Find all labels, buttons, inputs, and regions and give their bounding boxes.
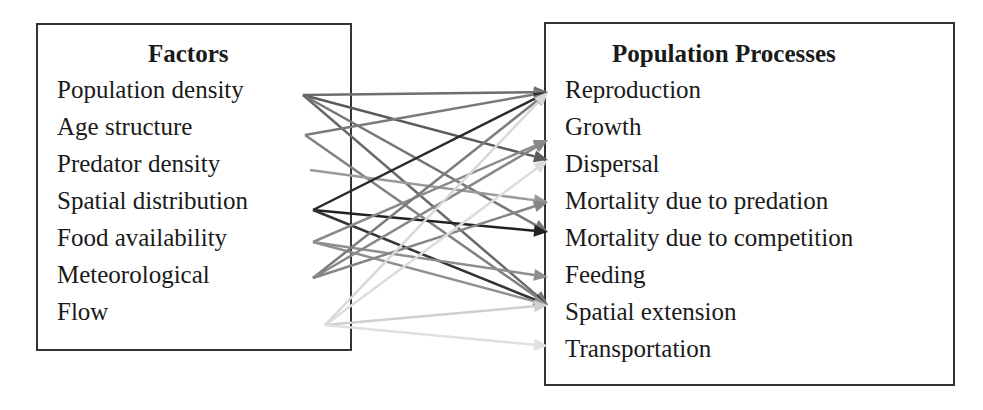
link-line	[325, 306, 534, 325]
process-transportation: Transportation	[565, 335, 711, 363]
factor-flow: Flow	[57, 298, 108, 326]
factor-meteorological: Meteorological	[57, 261, 210, 289]
link-line	[325, 325, 534, 345]
process-reproduction: Reproduction	[565, 76, 701, 104]
factor-population-density: Population density	[57, 76, 244, 104]
factor-food-availability: Food availability	[57, 224, 227, 252]
factor-age-structure: Age structure	[57, 113, 192, 141]
factors-title: Factors	[148, 40, 229, 68]
link-line	[325, 102, 538, 325]
process-growth: Growth	[565, 113, 641, 141]
process-mortality-competition: Mortality due to competition	[565, 224, 853, 252]
process-spatial-extension: Spatial extension	[565, 298, 737, 326]
factor-predator-density: Predator density	[57, 150, 220, 178]
process-dispersal: Dispersal	[565, 150, 659, 178]
factor-spatial-distribution: Spatial distribution	[57, 187, 248, 215]
process-mortality-predation: Mortality due to predation	[565, 187, 828, 215]
processes-title: Population Processes	[612, 40, 836, 68]
process-feeding: Feeding	[565, 261, 646, 289]
link-line	[325, 168, 537, 325]
